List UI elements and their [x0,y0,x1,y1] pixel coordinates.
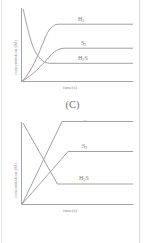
chart-d: concentration (M) H2 S2 H2S time(s) [0,120,145,223]
chart-d-label-h2s: H2S [79,175,89,182]
chart-d-axes [22,122,134,205]
panel-c: concentration (M) H2 S2 H2S time(s) (C) [0,0,145,120]
chart-d-y-axis-label: concentration (M) [13,163,18,198]
chart-c-y-axis-label: concentration (M) [13,40,18,75]
chart-c: concentration (M) H2 S2 H2S time(s) [0,0,145,100]
chart-d-series-h2s [23,123,133,184]
chart-d-series-h2 [22,122,133,205]
chart-c-series-h2 [22,24,133,81]
chart-c-label-h2: H2 [78,16,84,23]
chart-c-x-axis-label: time(s) [63,85,77,90]
figure-page: concentration (M) H2 S2 H2S time(s) (C) … [0,0,145,243]
chart-d-label-s2: S2 [82,143,87,150]
chart-c-label-s2: S2 [81,40,86,47]
panel-d: concentration (M) H2 S2 H2S time(s) (D) [0,120,145,243]
chart-d-x-axis-label: time(s) [63,208,77,213]
chart-d-series-s2 [22,152,133,205]
chart-c-label-h2s: H2S [78,55,88,62]
chart-c-caption: (C) [0,99,145,111]
